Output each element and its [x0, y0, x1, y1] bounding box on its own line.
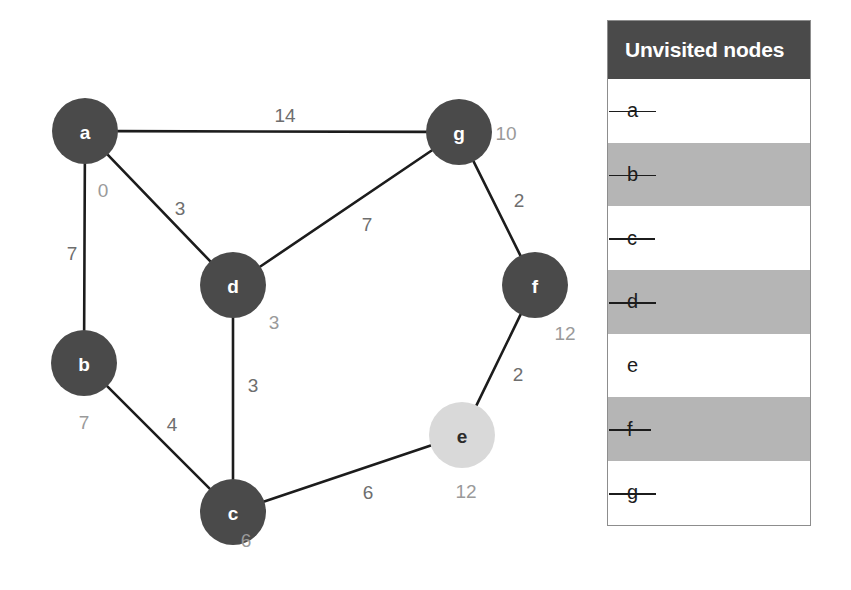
node-distance-a: 0	[98, 180, 109, 201]
node-label-c: c	[228, 503, 239, 524]
edge-weight-b-c: 4	[167, 414, 178, 435]
edge-weight-d-g: 7	[362, 214, 373, 235]
graph-edge-a-d	[108, 155, 210, 261]
node-label-g: g	[453, 123, 465, 144]
dijkstra-illustration: 1437723426 a0b7c6d3e12f12g10 Unvisited n…	[0, 0, 851, 590]
graph-edge-b-c	[107, 386, 209, 488]
unvisited-row-label-a: a	[625, 99, 640, 122]
unvisited-nodes-panel: Unvisited nodes abcdefg	[607, 20, 811, 526]
graph-node-b[interactable]: b	[51, 330, 117, 396]
graph-node-d[interactable]: d	[200, 252, 266, 318]
unvisited-row-f[interactable]: f	[608, 397, 810, 461]
node-label-f: f	[532, 276, 539, 297]
graph-edge-d-g	[260, 150, 431, 266]
graph-node-f[interactable]: f	[502, 252, 568, 318]
node-distance-b: 7	[79, 412, 90, 433]
unvisited-row-label-e: e	[625, 354, 640, 377]
node-distance-d: 3	[269, 312, 280, 333]
node-label-a: a	[80, 122, 91, 143]
edge-weight-a-g: 14	[274, 105, 296, 126]
unvisited-row-label-b: b	[625, 163, 640, 186]
unvisited-row-g[interactable]: g	[608, 461, 810, 525]
unvisited-row-b[interactable]: b	[608, 143, 810, 207]
edge-weight-f-e: 2	[513, 364, 524, 385]
graph-node-a[interactable]: a	[52, 98, 118, 164]
graph-nodes-layer: a0b7c6d3e12f12g10	[51, 98, 576, 551]
edge-weight-d-c: 3	[248, 375, 259, 396]
node-label-d: d	[227, 276, 239, 297]
node-distance-g: 10	[495, 123, 516, 144]
unvisited-row-label-f: f	[625, 418, 635, 441]
node-distance-f: 12	[554, 323, 575, 344]
graph-node-g[interactable]: g	[426, 99, 492, 165]
unvisited-nodes-title: Unvisited nodes	[608, 21, 810, 79]
graph-edge-a-b	[84, 164, 85, 330]
graph-node-e[interactable]: e	[429, 402, 495, 468]
unvisited-row-label-c: c	[625, 227, 639, 250]
unvisited-row-e[interactable]: e	[608, 334, 810, 398]
node-distance-e: 12	[455, 481, 476, 502]
unvisited-row-d[interactable]: d	[608, 270, 810, 334]
graph-node-c[interactable]: c	[200, 479, 266, 545]
graph-edge-f-e	[476, 315, 520, 406]
unvisited-row-c[interactable]: c	[608, 206, 810, 270]
node-distance-c: 6	[241, 530, 252, 551]
node-label-e: e	[457, 426, 468, 447]
edge-weight-a-d: 3	[175, 198, 186, 219]
unvisited-row-a[interactable]: a	[608, 79, 810, 143]
edge-weight-c-e: 6	[363, 482, 374, 503]
unvisited-row-label-d: d	[625, 290, 640, 313]
unvisited-nodes-list: abcdefg	[608, 79, 810, 525]
edge-weight-g-f: 2	[514, 190, 525, 211]
graph-edge-c-e	[264, 446, 430, 502]
unvisited-row-label-g: g	[625, 481, 640, 504]
edge-weight-a-b: 7	[67, 243, 78, 264]
graph-edge-a-g	[118, 131, 426, 132]
node-label-b: b	[78, 354, 90, 375]
